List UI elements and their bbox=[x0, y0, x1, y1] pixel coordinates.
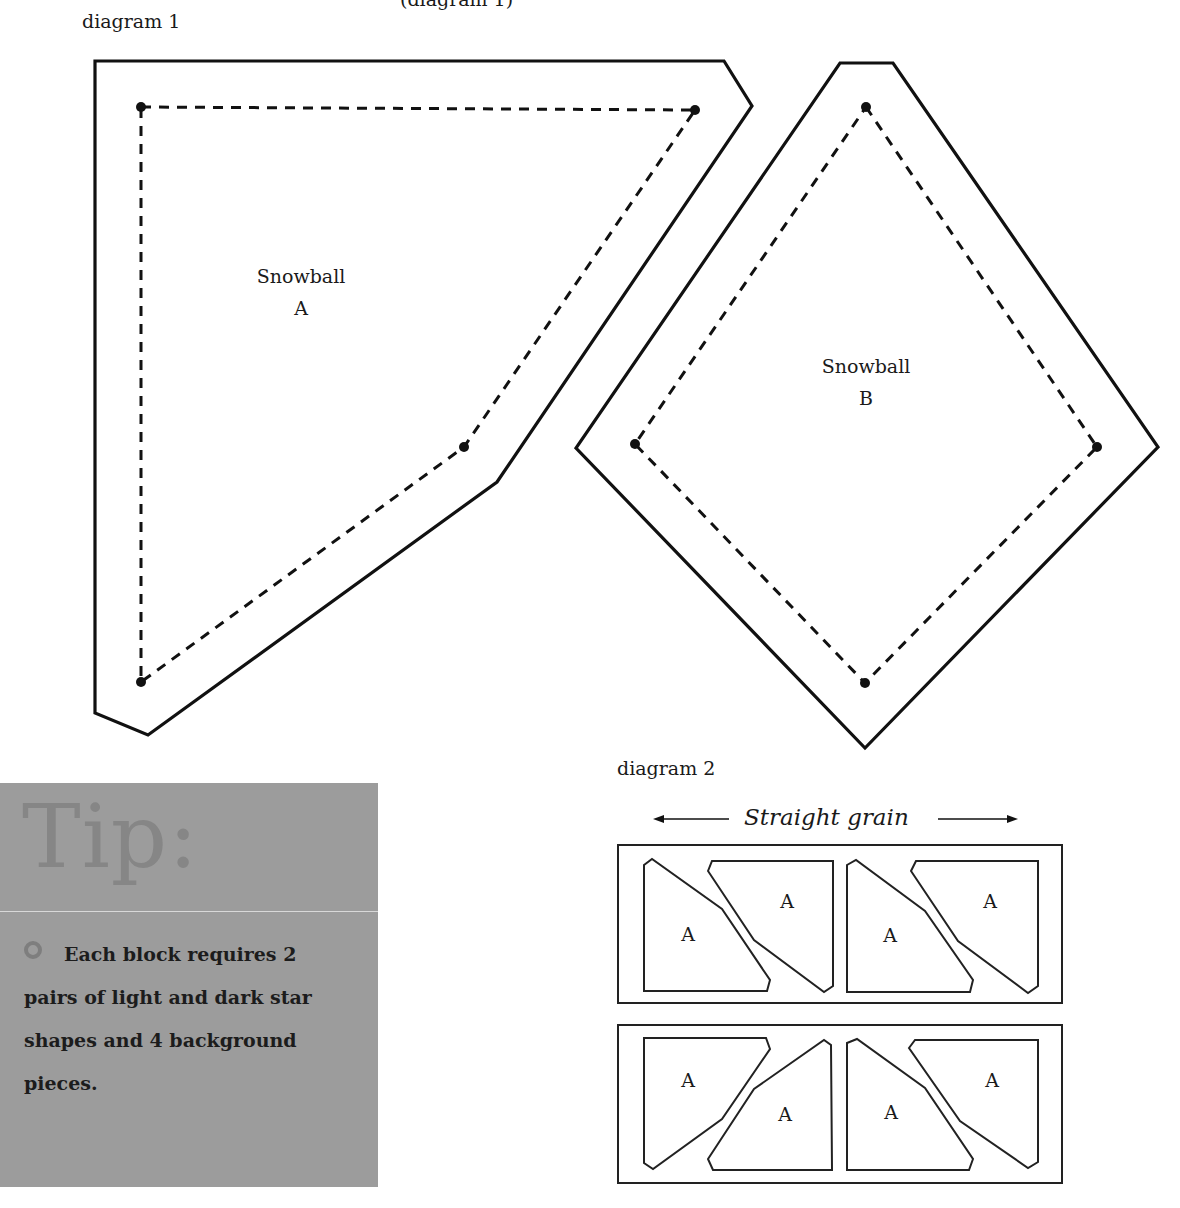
snowball-b-name: Snowball bbox=[822, 355, 911, 377]
tip-divider bbox=[0, 911, 378, 912]
tip-title: Tip: bbox=[22, 793, 199, 881]
corner-dot bbox=[860, 678, 870, 688]
snowball-a-name: Snowball bbox=[257, 265, 346, 287]
piece-label: A bbox=[779, 890, 794, 912]
corner-dot bbox=[861, 102, 871, 112]
corner-dot bbox=[630, 439, 640, 449]
corner-dot bbox=[136, 102, 146, 112]
piece-label: A bbox=[883, 1101, 898, 1123]
arrow-right-icon bbox=[938, 815, 1018, 823]
diagram-2-layout: A A A A A A A A bbox=[618, 845, 1062, 1183]
piece-label: A bbox=[984, 1069, 999, 1091]
straight-grain-label: Straight grain bbox=[744, 804, 909, 830]
tip-box: Tip: Each block requires 2 pairs of ligh… bbox=[0, 783, 378, 1187]
piece-label: A bbox=[680, 923, 695, 945]
tip-body: Each block requires 2 pairs of light and… bbox=[24, 933, 344, 1105]
corner-dot bbox=[690, 105, 700, 115]
arrow-left-icon bbox=[653, 815, 729, 823]
circle-bullet-icon bbox=[24, 941, 42, 959]
corner-dot bbox=[1092, 442, 1102, 452]
piece-label: A bbox=[982, 890, 997, 912]
diagram-2-caption: diagram 2 bbox=[617, 757, 715, 779]
snowball-b-letter: B bbox=[859, 387, 873, 409]
piece-label: A bbox=[777, 1103, 792, 1125]
snowball-a-letter: A bbox=[293, 297, 308, 319]
corner-dot bbox=[136, 677, 146, 687]
piece-label: A bbox=[882, 924, 897, 946]
piece-label: A bbox=[680, 1069, 695, 1091]
snowball-a-template: Snowball A bbox=[95, 61, 752, 735]
snowball-b-template: Snowball B bbox=[576, 63, 1158, 748]
tip-text: Each block requires 2 pairs of light and… bbox=[24, 943, 312, 1094]
corner-dot bbox=[459, 442, 469, 452]
